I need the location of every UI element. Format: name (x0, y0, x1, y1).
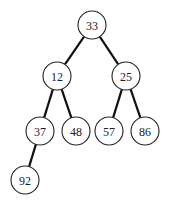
tree-edge-25-86 (131, 89, 141, 118)
node-label: 48 (70, 125, 82, 139)
node-label: 57 (103, 125, 115, 139)
tree-node-25: 25 (112, 62, 140, 90)
tree-node-86: 86 (131, 117, 159, 145)
nodes: 33 12 25 37 48 57 86 92 (11, 11, 159, 194)
tree-node-92: 92 (11, 166, 39, 194)
tree-edge-12-48 (62, 89, 72, 118)
tree-node-37: 37 (26, 117, 54, 145)
node-label: 92 (19, 174, 31, 188)
node-label: 86 (139, 125, 151, 139)
node-label: 33 (86, 19, 98, 33)
tree-diagram: 33 12 25 37 48 57 86 92 (0, 0, 172, 201)
node-label: 12 (51, 70, 63, 84)
tree-edge-33-25 (100, 37, 118, 65)
tree-edge-12-37 (44, 89, 53, 117)
tree-node-12: 12 (43, 62, 71, 90)
tree-edge-37-92 (29, 144, 36, 166)
tree-edge-33-12 (65, 37, 84, 65)
edges (29, 37, 140, 167)
tree-edge-25-57 (113, 89, 122, 117)
tree-node-48: 48 (62, 117, 90, 145)
node-label: 25 (120, 70, 132, 84)
node-label: 37 (34, 125, 46, 139)
tree-node-57: 57 (95, 117, 123, 145)
tree-node-33: 33 (78, 11, 106, 39)
